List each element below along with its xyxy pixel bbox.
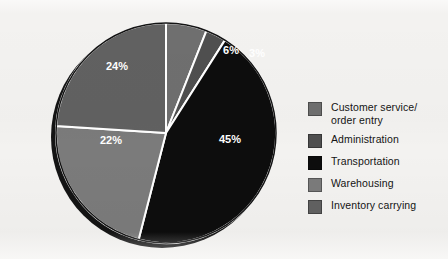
pie-chart-graphic: 6%3%45%22%24%	[49, 16, 283, 250]
pie-slice-label-2: 3%	[249, 47, 265, 59]
legend-item-4[interactable]: Warehousing	[308, 177, 448, 192]
legend-swatch-transportation	[308, 156, 322, 170]
legend-item-3[interactable]: Transportation	[308, 155, 448, 170]
legend-item-label-1: Customer service/ order entry	[331, 101, 417, 126]
pie-chart-figure: 6%3%45%22%24% Customer service/ order en…	[0, 0, 448, 259]
legend-swatch-customer-service	[308, 102, 322, 116]
legend-swatch-warehousing	[308, 178, 322, 192]
pie-slice-label-4: 22%	[100, 134, 122, 146]
legend-item-label-3: Transportation	[331, 155, 400, 168]
legend-item-label-5: Inventory carrying	[331, 199, 416, 212]
pie-slice-label-1: 6%	[223, 44, 239, 56]
legend-item-5[interactable]: Inventory carrying	[308, 199, 448, 214]
legend-item-label-2: Administration	[331, 133, 399, 146]
legend-item-2[interactable]: Administration	[308, 133, 448, 148]
chart-legend: Customer service/ order entryAdministrat…	[308, 101, 448, 221]
legend-swatch-administration	[308, 134, 322, 148]
legend-item-label-4: Warehousing	[331, 177, 394, 190]
pie-slice-5[interactable]	[56, 23, 166, 133]
pie-slice-label-5: 24%	[106, 60, 128, 72]
legend-swatch-inventory-carrying	[308, 200, 322, 214]
pie-slices	[56, 23, 276, 243]
pie-svg: 6%3%45%22%24%	[49, 16, 283, 250]
legend-item-1[interactable]: Customer service/ order entry	[308, 101, 448, 126]
pie-slice-label-3: 45%	[219, 133, 241, 145]
